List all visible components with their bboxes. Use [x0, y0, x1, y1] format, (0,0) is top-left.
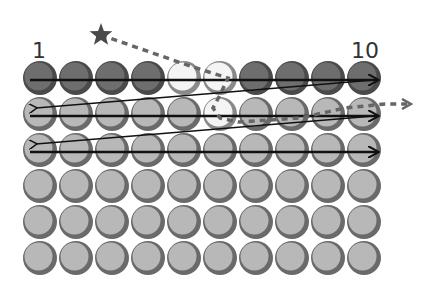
grid-cell — [131, 205, 165, 239]
grid-cell — [95, 169, 129, 203]
grid-cell — [23, 133, 57, 167]
grid-cell — [311, 61, 345, 95]
grid-cell — [95, 205, 129, 239]
grid-cell — [347, 133, 381, 167]
grid-cell — [239, 133, 273, 167]
grid-cell — [59, 205, 93, 239]
grid-cell — [275, 133, 309, 167]
grid-cell — [203, 61, 237, 95]
grid-cell — [311, 241, 345, 275]
grid-cell — [275, 241, 309, 275]
grid-cell — [311, 169, 345, 203]
grid-cell — [167, 169, 201, 203]
grid-cell — [203, 133, 237, 167]
grid-cell — [203, 97, 237, 131]
raster-scan-diagram: 1 10 — [0, 0, 434, 306]
grid-cell — [275, 97, 309, 131]
grid-cell — [59, 97, 93, 131]
grid-cell — [275, 61, 309, 95]
pixel-grid — [23, 61, 381, 275]
grid-cell — [131, 169, 165, 203]
grid-cell — [59, 169, 93, 203]
grid-cell — [131, 133, 165, 167]
grid-cell — [203, 205, 237, 239]
grid-cell — [239, 169, 273, 203]
grid-cell — [23, 205, 57, 239]
grid-cell — [347, 241, 381, 275]
grid-cell — [275, 205, 309, 239]
grid-cell — [23, 61, 57, 95]
grid-cell — [95, 61, 129, 95]
grid-cell — [167, 241, 201, 275]
grid-cell — [59, 241, 93, 275]
grid-cell — [167, 133, 201, 167]
grid-cell — [311, 133, 345, 167]
grid-cell — [347, 97, 381, 131]
grid-cell — [131, 97, 165, 131]
grid-cell — [23, 241, 57, 275]
grid-cell — [203, 241, 237, 275]
star-icon — [90, 23, 113, 45]
grid-cell — [203, 169, 237, 203]
grid-cell — [347, 205, 381, 239]
grid-cell — [275, 169, 309, 203]
grid-cell — [23, 97, 57, 131]
grid-cell — [347, 169, 381, 203]
grid-cell — [347, 61, 381, 95]
grid-cell — [311, 205, 345, 239]
grid-canvas — [0, 0, 434, 306]
grid-cell — [167, 205, 201, 239]
grid-cell — [167, 97, 201, 131]
grid-cell — [239, 205, 273, 239]
grid-cell — [131, 241, 165, 275]
grid-cell — [59, 133, 93, 167]
grid-cell — [59, 61, 93, 95]
grid-cell — [239, 241, 273, 275]
grid-cell — [23, 169, 57, 203]
grid-cell — [95, 241, 129, 275]
grid-cell — [131, 61, 165, 95]
